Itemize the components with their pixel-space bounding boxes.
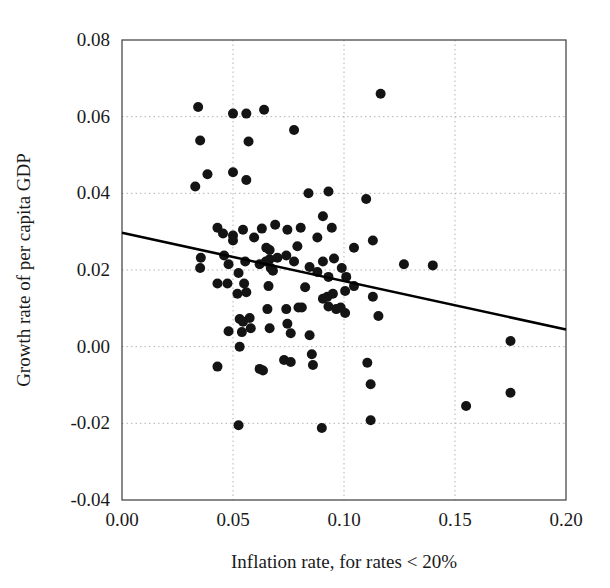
data-point — [228, 235, 238, 245]
data-point — [224, 259, 234, 269]
data-point — [297, 303, 307, 313]
data-point — [262, 304, 272, 314]
data-point — [224, 326, 234, 336]
y-tick-label: 0.04 — [77, 182, 111, 203]
data-point — [349, 243, 359, 253]
data-point — [337, 263, 347, 273]
data-point — [270, 220, 280, 230]
data-point — [289, 257, 299, 267]
data-point — [366, 415, 376, 425]
data-point — [232, 289, 242, 299]
data-point — [249, 232, 259, 242]
data-point — [257, 224, 267, 234]
data-point — [193, 102, 203, 112]
data-point — [312, 232, 322, 242]
data-point — [228, 109, 238, 119]
data-point — [244, 137, 254, 147]
data-point — [264, 281, 274, 291]
data-point — [286, 357, 296, 367]
data-point — [228, 167, 238, 177]
data-point — [317, 423, 327, 433]
x-axis-title: Inflation rate, for rates < 20% — [231, 551, 457, 572]
y-tick-label: -0.04 — [70, 489, 110, 510]
data-point — [461, 401, 471, 411]
x-tick-label: 0.05 — [216, 509, 249, 530]
data-point — [362, 358, 372, 368]
data-point — [212, 278, 222, 288]
data-point — [246, 323, 256, 333]
data-point — [506, 388, 516, 398]
data-point — [399, 259, 409, 269]
data-point — [237, 327, 247, 337]
data-point — [300, 282, 310, 292]
data-point — [368, 235, 378, 245]
data-point — [292, 241, 302, 251]
data-point — [376, 89, 386, 99]
data-point — [303, 188, 313, 198]
data-point — [327, 223, 337, 233]
x-tick-label: 0.15 — [438, 509, 471, 530]
data-point — [305, 330, 315, 340]
data-point — [506, 336, 516, 346]
data-point — [245, 313, 255, 323]
data-point — [366, 379, 376, 389]
data-point — [323, 186, 333, 196]
data-point — [308, 360, 318, 370]
plot-canvas: 0.000.050.100.150.20 -0.04-0.020.000.020… — [0, 0, 610, 588]
y-tick-label: 0.08 — [77, 29, 110, 50]
data-point — [282, 225, 292, 235]
data-point — [361, 194, 371, 204]
data-point — [218, 229, 228, 239]
data-point — [373, 311, 383, 321]
data-point — [196, 253, 206, 263]
data-point — [368, 292, 378, 302]
data-point — [428, 260, 438, 270]
data-point — [195, 135, 205, 145]
data-point — [195, 263, 205, 273]
scatter-plot-figure: 0.000.050.100.150.20 -0.04-0.020.000.020… — [0, 0, 610, 588]
data-point — [234, 420, 244, 430]
data-point — [265, 323, 275, 333]
data-point — [281, 250, 291, 260]
data-point — [258, 365, 268, 375]
x-tick-label: 0.00 — [105, 509, 138, 530]
x-tick-label: 0.20 — [549, 509, 582, 530]
data-point — [282, 319, 292, 329]
data-point — [241, 175, 251, 185]
data-point — [329, 254, 339, 264]
data-point — [289, 125, 299, 135]
data-point — [259, 105, 269, 115]
data-point — [238, 225, 248, 235]
y-tick-label: 0.06 — [77, 106, 110, 127]
data-point — [296, 223, 306, 233]
data-point — [281, 304, 291, 314]
y-axis-title: Growth rate of per capita GDP — [13, 153, 34, 387]
data-point — [265, 245, 275, 255]
data-point — [241, 287, 251, 297]
data-point — [286, 328, 296, 338]
data-point — [222, 278, 232, 288]
data-point — [241, 109, 251, 119]
data-point — [239, 278, 249, 288]
y-tick-label: 0.02 — [77, 259, 110, 280]
y-tick-label: -0.02 — [70, 412, 110, 433]
data-point — [318, 211, 328, 221]
data-point — [212, 362, 222, 372]
data-point — [234, 268, 244, 278]
data-point — [340, 286, 350, 296]
data-point — [202, 169, 212, 179]
y-tick-label: 0.00 — [77, 336, 110, 357]
data-point — [190, 181, 200, 191]
data-point — [307, 349, 317, 359]
data-point — [235, 342, 245, 352]
x-tick-label: 0.10 — [327, 509, 360, 530]
data-point — [328, 289, 338, 299]
data-point — [318, 257, 328, 267]
data-point — [272, 253, 282, 263]
data-point — [340, 308, 350, 318]
